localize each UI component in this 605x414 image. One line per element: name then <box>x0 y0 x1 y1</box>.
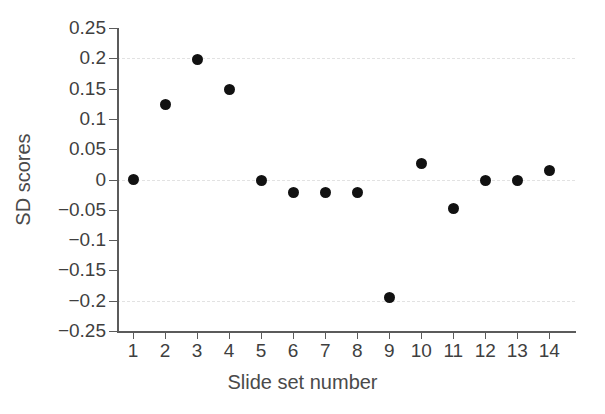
y-axis-tick-label: 0.2 <box>30 47 106 69</box>
x-axis-tick-label: 5 <box>256 340 267 362</box>
x-axis-tick <box>453 331 454 339</box>
data-point <box>128 174 139 185</box>
data-point <box>544 165 555 176</box>
x-axis-tick <box>517 331 518 339</box>
data-point <box>512 175 523 186</box>
data-point <box>224 84 235 95</box>
y-axis-tick-label: 0.25 <box>30 17 106 39</box>
x-axis-tick <box>549 331 550 339</box>
gridline <box>117 180 575 181</box>
y-axis-tick <box>109 210 117 211</box>
x-axis-title: Slide set number <box>0 371 605 394</box>
data-point <box>416 158 427 169</box>
y-axis-tick-label: 0.1 <box>30 108 106 130</box>
x-axis-tick-label: 1 <box>128 340 139 362</box>
x-axis-tick-label: 11 <box>443 340 463 362</box>
y-axis-tick <box>109 89 117 90</box>
data-point <box>320 187 331 198</box>
x-axis-tick <box>325 331 326 339</box>
y-axis-tick-label: −0.1 <box>30 229 106 251</box>
gridline <box>117 58 575 59</box>
y-axis-tick <box>109 240 117 241</box>
x-axis-tick <box>197 331 198 339</box>
data-point <box>480 175 491 186</box>
x-axis-tick <box>165 331 166 339</box>
scatter-chart-figure: Slide set number SD scores 0.250.20.150.… <box>0 0 605 414</box>
data-point <box>160 99 171 110</box>
plot-area <box>117 28 575 331</box>
x-axis-tick-label: 3 <box>192 340 203 362</box>
x-axis-tick-label: 8 <box>352 340 363 362</box>
y-axis-tick-label: 0 <box>30 169 106 191</box>
x-axis-tick-label: 14 <box>539 340 560 362</box>
data-point <box>256 175 267 186</box>
x-axis-tick-label: 9 <box>384 340 395 362</box>
x-axis-tick <box>421 331 422 339</box>
y-axis-tick-label: −0.2 <box>30 290 106 312</box>
y-axis-tick <box>109 180 117 181</box>
x-axis-tick <box>389 331 390 339</box>
x-axis-tick <box>133 331 134 339</box>
y-axis-tick-label: 0.05 <box>30 138 106 160</box>
data-point <box>448 203 459 214</box>
data-point <box>192 54 203 65</box>
data-point <box>352 187 363 198</box>
x-axis-line <box>117 331 576 333</box>
x-axis-tick-label: 10 <box>411 340 432 362</box>
y-axis-tick <box>109 28 117 29</box>
y-axis-tick <box>109 331 117 332</box>
x-axis-tick <box>293 331 294 339</box>
x-axis-tick <box>357 331 358 339</box>
x-axis-tick-label: 4 <box>224 340 235 362</box>
gridline <box>117 301 575 302</box>
y-axis-tick-label: 0.15 <box>30 78 106 100</box>
x-axis-tick <box>485 331 486 339</box>
y-axis-tick <box>109 301 117 302</box>
y-axis-tick-label: −0.25 <box>30 320 106 342</box>
y-axis-tick <box>109 270 117 271</box>
x-axis-tick-label: 13 <box>507 340 528 362</box>
y-axis-tick <box>109 149 117 150</box>
x-axis-tick-label: 6 <box>288 340 299 362</box>
y-axis-tick-label: −0.15 <box>30 259 106 281</box>
y-axis-tick <box>109 58 117 59</box>
data-point <box>288 187 299 198</box>
y-axis-tick-label: −0.05 <box>30 199 106 221</box>
x-axis-tick-label: 2 <box>160 340 171 362</box>
x-axis-tick <box>261 331 262 339</box>
x-axis-tick-label: 7 <box>320 340 331 362</box>
data-point <box>384 292 395 303</box>
x-axis-tick <box>229 331 230 339</box>
y-axis-tick <box>109 119 117 120</box>
x-axis-tick-label: 12 <box>475 340 496 362</box>
y-axis-line <box>117 28 119 332</box>
